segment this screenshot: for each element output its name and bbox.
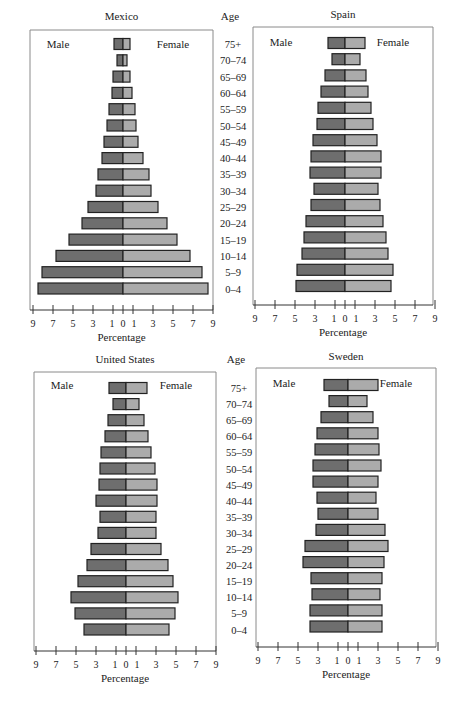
bar-row (304, 232, 386, 243)
bar-row (84, 624, 169, 635)
bar-row (96, 185, 151, 196)
age-group-label: 15–19 (220, 235, 246, 246)
female-bar (123, 169, 149, 180)
x-tick-label: 0 (343, 313, 348, 324)
bar-row (313, 460, 381, 471)
bar-row (102, 153, 143, 164)
legend-female-label: Female (377, 36, 409, 48)
male-bar (310, 605, 348, 616)
age-group-label: 75+ (231, 383, 248, 394)
bar-row (332, 54, 360, 65)
male-bar (112, 87, 123, 98)
pyramid-panel-sweden: SwedenMaleFemale97531013579Percentage (256, 350, 441, 680)
bar-row (310, 621, 382, 632)
legend-female-label: Female (160, 379, 192, 391)
bar-row (324, 380, 378, 391)
age-group-label: 0–4 (225, 284, 242, 295)
female-bar (345, 200, 380, 211)
male-bar (315, 444, 348, 455)
bar-row (325, 70, 366, 81)
male-bar (113, 399, 126, 410)
x-tick-label: 9 (34, 659, 39, 670)
male-bar (107, 120, 123, 131)
female-bar (345, 54, 360, 65)
legend-male-label: Male (51, 379, 74, 391)
x-tick-label: 5 (171, 318, 176, 329)
female-bar (126, 383, 147, 394)
male-bar (305, 541, 348, 552)
age-group-label: 40–44 (226, 496, 253, 507)
legend-female-label: Female (380, 377, 412, 389)
female-bar (345, 264, 393, 275)
bar-row (297, 264, 393, 275)
bar-row (302, 248, 388, 259)
female-bar (348, 444, 379, 455)
bar-row (311, 200, 380, 211)
bar-row (114, 39, 130, 50)
female-bar (126, 560, 168, 571)
male-bar (98, 169, 123, 180)
age-group-label: 0–4 (231, 625, 248, 636)
x-tick-label: 3 (376, 655, 381, 666)
bar-row (296, 281, 391, 292)
age-group-label: 55–59 (220, 104, 246, 115)
bar-row (316, 524, 385, 535)
female-bar (348, 476, 378, 487)
x-tick-label: 1 (332, 313, 337, 324)
bar-row (113, 71, 130, 82)
legend-female-label: Female (157, 38, 189, 50)
chart-title: Spain (330, 8, 356, 20)
bar-row (69, 234, 177, 245)
male-bar (313, 476, 348, 487)
female-bar (126, 415, 144, 426)
x-tick-label: 5 (396, 655, 401, 666)
bar-row (100, 511, 156, 522)
female-bar (348, 492, 376, 503)
female-bar (348, 396, 367, 407)
male-bar (101, 447, 126, 458)
female-bar (126, 544, 161, 555)
x-tick-label: 3 (316, 655, 321, 666)
male-bar (316, 524, 348, 535)
male-bar (302, 248, 345, 259)
x-tick-label: 0 (121, 318, 126, 329)
female-bar (348, 524, 385, 535)
female-bar (348, 428, 378, 439)
bar-row (314, 183, 378, 194)
pyramid-panel-mexico: MexicoMaleFemale97531013579PercentageAge… (30, 10, 247, 343)
age-group-label: 50–54 (220, 121, 247, 132)
female-bar (345, 151, 381, 162)
female-bar (126, 511, 156, 522)
bar-row (113, 399, 139, 410)
male-bar (317, 492, 348, 503)
chart-title: Mexico (105, 10, 139, 22)
female-bar (126, 592, 178, 603)
bar-row (71, 592, 178, 603)
male-bar (318, 508, 348, 519)
male-bar (296, 281, 345, 292)
bar-row (317, 428, 378, 439)
bar-row (329, 396, 367, 407)
bar-row (311, 573, 382, 584)
bar-row (117, 55, 127, 66)
x-tick-label: 1 (357, 655, 362, 666)
x-axis-label: Percentage (319, 326, 367, 338)
x-tick-label: 9 (253, 313, 258, 324)
male-bar (75, 608, 126, 619)
x-tick-label: 5 (293, 313, 298, 324)
age-group-label: 50–54 (226, 464, 253, 475)
x-tick-label: 7 (191, 318, 196, 329)
male-bar (303, 557, 348, 568)
x-tick-label: 7 (51, 318, 56, 329)
x-tick-label: 7 (54, 659, 59, 670)
female-bar (126, 431, 148, 442)
female-bar (123, 267, 202, 278)
pyramid-panel-spain: SpainMaleFemale97531013579Percentage (253, 8, 438, 338)
bar-row (303, 557, 384, 568)
age-group-label: 10–14 (226, 592, 253, 603)
x-tick-label: 1 (110, 318, 115, 329)
male-bar (78, 576, 126, 587)
male-bar (306, 216, 345, 227)
female-bar (345, 119, 373, 130)
male-bar (329, 396, 348, 407)
